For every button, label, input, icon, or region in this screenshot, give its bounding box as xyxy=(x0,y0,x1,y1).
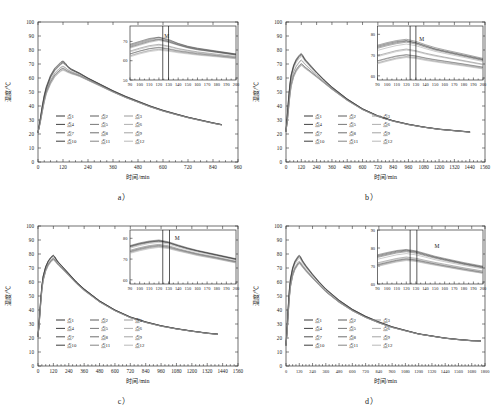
svg-text:1800: 1800 xyxy=(481,369,491,374)
svg-text:90: 90 xyxy=(29,237,35,243)
svg-text:40: 40 xyxy=(29,103,35,109)
svg-text:240: 240 xyxy=(313,164,321,170)
svg-text:0: 0 xyxy=(37,164,40,170)
svg-text:840: 840 xyxy=(389,164,397,170)
svg-text:0: 0 xyxy=(31,363,34,369)
svg-text:960: 960 xyxy=(389,369,396,374)
svg-text:30: 30 xyxy=(277,321,283,327)
svg-text:100: 100 xyxy=(136,82,143,87)
svg-text:130: 130 xyxy=(165,286,172,291)
svg-text:0: 0 xyxy=(31,159,34,165)
svg-text:20: 20 xyxy=(29,131,35,137)
svg-text:720: 720 xyxy=(374,164,382,170)
svg-text:30: 30 xyxy=(29,321,35,327)
svg-text:20: 20 xyxy=(277,131,283,137)
svg-text:1320: 1320 xyxy=(428,369,438,374)
svg-text:70: 70 xyxy=(277,265,283,271)
svg-text:温度/℃: 温度/℃ xyxy=(252,82,260,102)
svg-text:120: 120 xyxy=(403,82,410,87)
svg-text:120: 120 xyxy=(156,82,163,87)
svg-text:600: 600 xyxy=(159,164,167,170)
svg-text:110: 110 xyxy=(146,286,153,291)
svg-text:1200: 1200 xyxy=(434,164,445,170)
svg-text:40: 40 xyxy=(277,307,283,313)
svg-text:840: 840 xyxy=(376,369,383,374)
svg-text:60: 60 xyxy=(277,279,283,285)
svg-text:80: 80 xyxy=(277,47,283,53)
svg-text:190: 190 xyxy=(470,286,477,291)
svg-text:200: 200 xyxy=(233,286,240,291)
svg-text:1320: 1320 xyxy=(449,164,460,170)
svg-text:170: 170 xyxy=(451,82,458,87)
svg-text:190: 190 xyxy=(470,82,477,87)
svg-text:240: 240 xyxy=(65,368,73,374)
svg-text:70: 70 xyxy=(277,61,283,67)
svg-text:130: 130 xyxy=(413,82,420,87)
svg-text:360: 360 xyxy=(80,368,88,374)
svg-text:140: 140 xyxy=(175,82,182,87)
svg-text:1200: 1200 xyxy=(414,369,424,374)
svg-text:50: 50 xyxy=(277,89,283,95)
svg-text:60: 60 xyxy=(29,279,35,285)
svg-text:190: 190 xyxy=(223,82,230,87)
svg-text:50: 50 xyxy=(29,293,35,299)
panel-caption-c: c） xyxy=(0,395,248,406)
svg-text:120: 120 xyxy=(403,286,410,291)
svg-text:190: 190 xyxy=(223,286,230,291)
svg-text:840: 840 xyxy=(142,368,150,374)
svg-text:90: 90 xyxy=(29,33,35,39)
svg-text:M: M xyxy=(419,36,424,42)
chart-svg-a: 0102030405060708090100012024036048060072… xyxy=(0,0,248,204)
svg-text:100: 100 xyxy=(136,286,143,291)
svg-text:90: 90 xyxy=(277,237,283,243)
svg-text:120: 120 xyxy=(297,164,305,170)
svg-text:150: 150 xyxy=(185,286,192,291)
svg-text:100: 100 xyxy=(274,223,282,229)
svg-text:960: 960 xyxy=(405,164,413,170)
svg-text:10: 10 xyxy=(29,145,35,151)
svg-text:60: 60 xyxy=(277,75,283,81)
svg-text:30: 30 xyxy=(29,117,35,123)
svg-text:140: 140 xyxy=(175,286,182,291)
svg-text:10: 10 xyxy=(29,349,35,355)
svg-text:70: 70 xyxy=(29,265,35,271)
svg-text:480: 480 xyxy=(96,368,104,374)
svg-text:130: 130 xyxy=(165,82,172,87)
svg-text:60: 60 xyxy=(29,75,35,81)
svg-text:600: 600 xyxy=(349,369,356,374)
svg-text:480: 480 xyxy=(343,164,351,170)
svg-text:10: 10 xyxy=(277,145,283,151)
svg-text:1680: 1680 xyxy=(467,369,477,374)
svg-text:1440: 1440 xyxy=(217,368,228,374)
chart-panel-d: 0102030405060708090100012024036048060072… xyxy=(248,204,495,408)
svg-text:150: 150 xyxy=(432,286,439,291)
svg-text:20: 20 xyxy=(29,335,35,341)
svg-text:120: 120 xyxy=(296,369,303,374)
svg-text:720: 720 xyxy=(184,164,192,170)
chart-svg-c: 0102030405060708090100012024036048060072… xyxy=(0,204,248,408)
svg-text:170: 170 xyxy=(204,82,211,87)
svg-text:150: 150 xyxy=(185,82,192,87)
svg-text:720: 720 xyxy=(362,369,369,374)
chart-panel-b: 0102030405060708090100012024036048060072… xyxy=(248,0,495,204)
svg-text:时间/min: 时间/min xyxy=(126,377,149,385)
svg-text:100: 100 xyxy=(26,19,34,25)
svg-text:480: 480 xyxy=(336,369,343,374)
svg-text:720: 720 xyxy=(126,368,134,374)
svg-text:时间/min: 时间/min xyxy=(374,377,397,385)
svg-text:M: M xyxy=(164,33,169,39)
svg-text:1080: 1080 xyxy=(401,369,411,374)
svg-text:140: 140 xyxy=(422,82,429,87)
svg-text:1440: 1440 xyxy=(465,164,476,170)
svg-text:80: 80 xyxy=(29,47,35,53)
svg-text:180: 180 xyxy=(461,82,468,87)
svg-text:360: 360 xyxy=(328,164,336,170)
svg-text:80: 80 xyxy=(29,251,35,257)
svg-text:200: 200 xyxy=(480,82,487,87)
svg-text:480: 480 xyxy=(134,164,142,170)
svg-text:960: 960 xyxy=(157,368,165,374)
svg-text:110: 110 xyxy=(393,82,400,87)
svg-text:110: 110 xyxy=(146,82,153,87)
svg-text:70: 70 xyxy=(29,61,35,67)
svg-text:130: 130 xyxy=(413,286,420,291)
